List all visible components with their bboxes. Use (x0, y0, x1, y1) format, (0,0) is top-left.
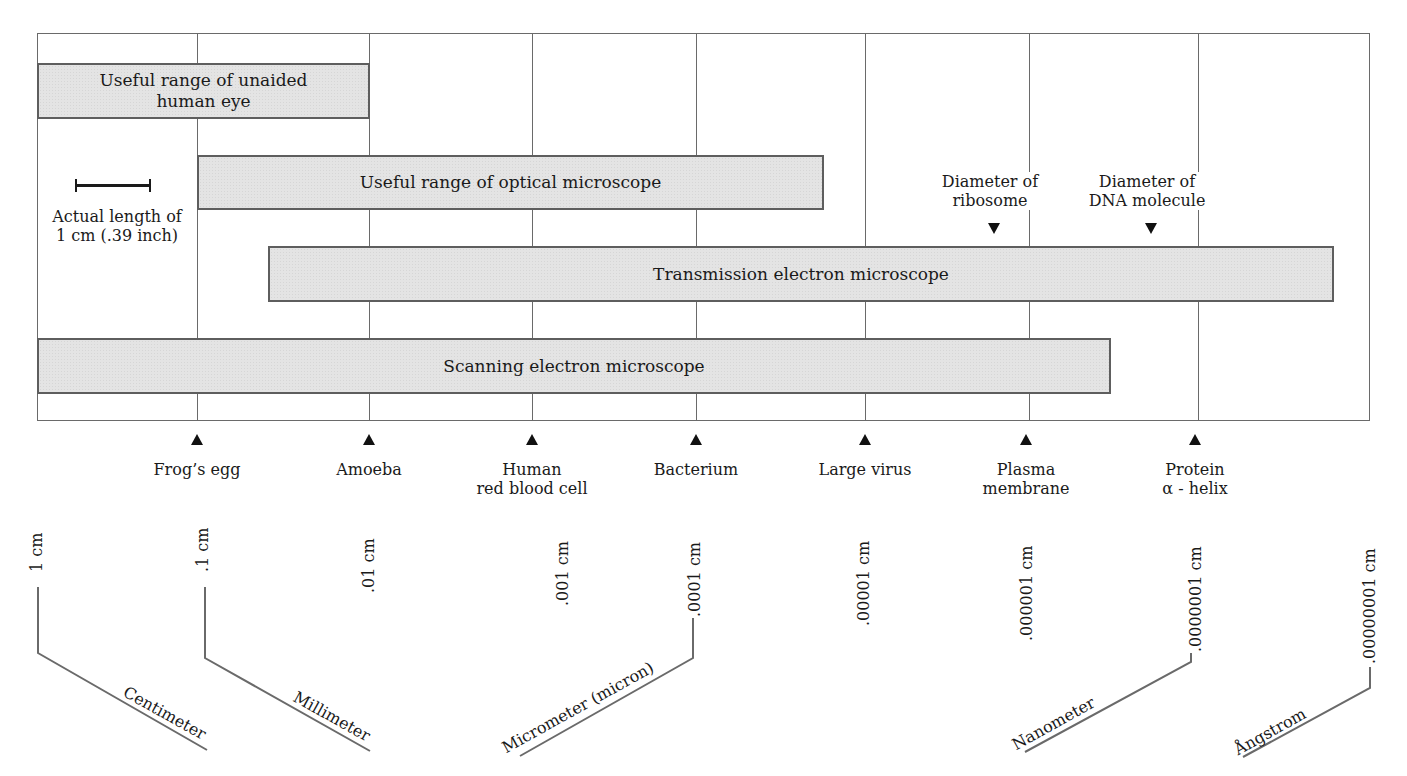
connector-nanometer (1025, 653, 1191, 752)
unit-connector-lines (0, 0, 1407, 776)
